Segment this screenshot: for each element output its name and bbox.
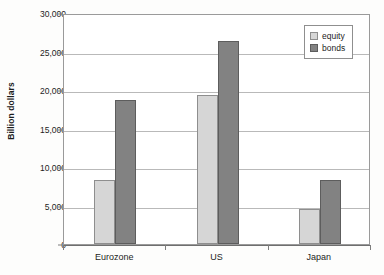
bar-us-equity bbox=[197, 95, 218, 244]
gridline bbox=[64, 92, 369, 93]
legend-label-equity: equity bbox=[322, 31, 345, 41]
legend-item-equity: equity bbox=[310, 30, 345, 42]
y-axis-tick-label: 5,000 bbox=[6, 202, 66, 212]
bar-japan-bonds bbox=[320, 180, 341, 244]
y-axis-title: Billion dollars bbox=[6, 71, 16, 151]
chart-figure: Billion dollars 05,00010,00015,00020,000… bbox=[0, 0, 384, 275]
x-axis-label-japan: Japan bbox=[269, 252, 369, 262]
y-axis-tick-label: 30,000 bbox=[6, 9, 66, 19]
y-axis-tick-label: 0 bbox=[6, 240, 66, 250]
legend-item-bonds: bonds bbox=[310, 42, 345, 54]
legend-swatch-bonds-icon bbox=[310, 44, 318, 52]
bar-japan-equity bbox=[299, 209, 320, 244]
legend-label-bonds: bonds bbox=[322, 43, 345, 53]
bar-eurozone-equity bbox=[94, 180, 115, 244]
y-axis-tick-label: 20,000 bbox=[6, 86, 66, 96]
y-axis-tick-label: 15,000 bbox=[6, 125, 66, 135]
x-axis-line bbox=[63, 245, 370, 246]
x-axis-tick-mark bbox=[268, 245, 269, 250]
x-axis-label-us: US bbox=[167, 252, 267, 262]
legend-swatch-equity-icon bbox=[310, 32, 318, 40]
chart-legend: equity bonds bbox=[304, 25, 353, 59]
x-axis-label-eurozone: Eurozone bbox=[64, 252, 164, 262]
x-axis-tick-mark bbox=[63, 245, 64, 250]
bar-us-bonds bbox=[218, 41, 239, 244]
x-axis-tick-mark bbox=[370, 245, 371, 250]
x-axis-tick-mark bbox=[165, 245, 166, 250]
y-axis-tick-label: 25,000 bbox=[6, 48, 66, 58]
bar-eurozone-bonds bbox=[115, 100, 136, 244]
y-axis-tick-label: 10,000 bbox=[6, 163, 66, 173]
